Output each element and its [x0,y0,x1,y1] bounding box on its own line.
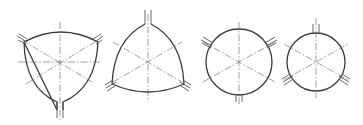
stub-lower-left [282,74,293,85]
profile-2 [105,10,191,102]
stub-upper-right [265,37,277,48]
profiles-diagram [0,0,363,125]
profile-1 [17,22,103,120]
profile-4 [282,18,350,98]
profile-1-outline [24,32,98,110]
profile-3 [201,22,277,104]
